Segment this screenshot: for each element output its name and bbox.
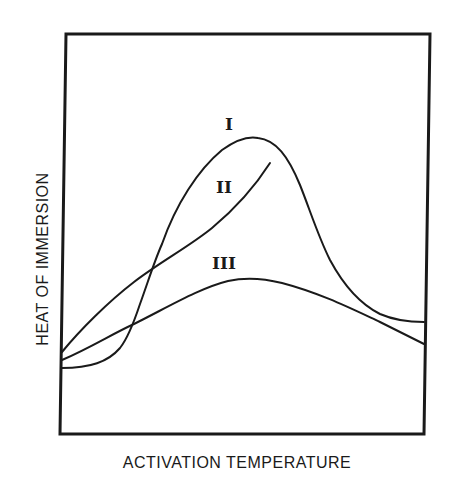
y-axis-label: HEAT OF IMMERSION: [34, 172, 51, 345]
chart: I II III ACTIVATION TEMPERATURE HEAT OF …: [0, 0, 452, 481]
plot-frame: [60, 34, 430, 434]
curve-II: [62, 163, 270, 352]
x-axis-label: ACTIVATION TEMPERATURE: [123, 454, 352, 471]
curve-III: [62, 279, 424, 360]
curve-label-III: III: [212, 253, 236, 273]
curve-label-I: I: [225, 114, 233, 134]
curve-label-II: II: [216, 177, 232, 197]
